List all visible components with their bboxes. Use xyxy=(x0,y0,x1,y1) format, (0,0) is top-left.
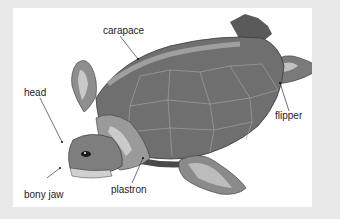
flipper-left-front xyxy=(72,60,97,112)
label-bony-jaw: bony jaw xyxy=(24,190,63,200)
diagram-panel: carapace head flipper bony jaw plastron xyxy=(13,8,312,207)
label-flipper: flipper xyxy=(275,111,302,121)
leader-bony-jaw xyxy=(47,168,60,178)
head-shape xyxy=(69,134,123,178)
turtle-illustration xyxy=(13,8,312,207)
label-carapace: carapace xyxy=(103,26,144,36)
label-plastron: plastron xyxy=(111,185,147,195)
flipper-right-front xyxy=(179,155,246,194)
label-head: head xyxy=(24,88,46,98)
leader-carapace xyxy=(120,36,138,59)
leader-flipper xyxy=(280,83,289,111)
leader-head xyxy=(40,98,62,142)
